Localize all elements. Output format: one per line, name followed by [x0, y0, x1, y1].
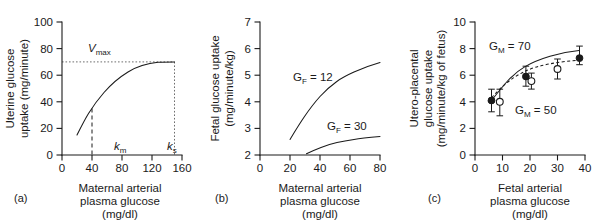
- y-ticks-c: [470, 22, 476, 155]
- y-ticks-b: [255, 22, 261, 155]
- y-tick-label-a-2: 40: [40, 96, 53, 108]
- x-tick-label-a-2: 80: [116, 162, 129, 174]
- svg-text:plasma glucose: plasma glucose: [80, 195, 160, 207]
- svg-text:(mg/dl): (mg/dl): [302, 208, 338, 220]
- y-tick-label-b-3: 5: [245, 69, 251, 81]
- figure-container: 0 20 40 60 80 100 0 40 80 120 160 Vmax k…: [0, 0, 607, 222]
- series-label-gf-30: GF = 30: [327, 120, 367, 135]
- x-tick-label-c-2: 20: [524, 162, 537, 174]
- x-tick-label-c-0: 0: [472, 162, 478, 174]
- y-tick-label-a-4: 80: [40, 43, 53, 55]
- x-tick-label-c-4: 40: [579, 162, 592, 174]
- x-ticks-b: [260, 155, 380, 161]
- y-tick-label-c-4: 8: [460, 43, 466, 55]
- panel-a-plot: 0 20 40 60 80 100 0 40 80 120 160 Vmax k…: [0, 0, 205, 222]
- panel-c: 0 2 4 6 8 10 0 10 20 30 40 GM = 70 GM = …: [398, 0, 607, 222]
- km-annotation: km: [114, 140, 127, 155]
- panel-letter-c: (c): [428, 192, 441, 204]
- x-tick-label-b-3: 60: [344, 162, 357, 174]
- x-axis-title-b: Maternal arterial plasma glucose (mg/dl): [278, 182, 361, 220]
- x-axis-title-a: Maternal arterial plasma glucose (mg/dl): [78, 182, 161, 220]
- series-label-gf-12: GF = 12: [293, 71, 333, 86]
- svg-text:Utero-placental: Utero-placental: [408, 50, 420, 128]
- x-tick-label-a-3: 120: [142, 162, 161, 174]
- trend-line-gm-50: [488, 60, 583, 102]
- y-tick-label-c-1: 2: [460, 122, 466, 134]
- panel-b: 2 3 4 5 6 7 0 20 40 60 80 GF = 12 GF = 3…: [203, 0, 403, 222]
- y-tick-label-b-4: 6: [245, 43, 251, 55]
- svg-text:glucose uptake: glucose uptake: [422, 50, 434, 127]
- x-tick-label-c-3: 30: [551, 162, 564, 174]
- x-tick-label-a-4: 160: [172, 162, 191, 174]
- svg-text:(mg/dl): (mg/dl): [102, 208, 138, 220]
- svg-text:Maternal arterial: Maternal arterial: [78, 182, 161, 194]
- svg-text:(mg/minute/kg of fetus): (mg/minute/kg of fetus): [435, 30, 447, 148]
- svg-text:uptake (mg/minute): uptake (mg/minute): [18, 39, 30, 138]
- y-axis-title-c: Utero-placental glucose uptake (mg/minut…: [408, 30, 447, 148]
- y-tick-label-b-5: 7: [245, 16, 251, 28]
- svg-text:(mg/minute/kg): (mg/minute/kg): [223, 50, 235, 127]
- x-tick-label-b-0: 0: [257, 162, 263, 174]
- panel-letter-a: (a): [14, 192, 27, 204]
- x-ticks-a: [62, 155, 182, 161]
- y-tick-label-b-0: 2: [245, 149, 251, 161]
- svg-text:Maternal arterial: Maternal arterial: [278, 182, 361, 194]
- x-tick-label-b-2: 40: [314, 162, 327, 174]
- y-tick-label-c-2: 4: [460, 96, 467, 108]
- x-tick-label-b-1: 20: [284, 162, 297, 174]
- x-tick-label-a-0: 0: [59, 162, 65, 174]
- y-tick-label-c-0: 0: [460, 149, 466, 161]
- svg-text:(mg/dl): (mg/dl): [512, 208, 548, 220]
- y-tick-label-a-3: 60: [40, 69, 53, 81]
- ks-annotation: ks: [167, 140, 177, 155]
- panel-b-plot: 2 3 4 5 6 7 0 20 40 60 80 GF = 12 GF = 3…: [203, 0, 403, 222]
- trend-line-gm-70: [492, 51, 580, 101]
- x-axis-title-c: Fetal arterial plasma glucose (mg/dl): [490, 182, 570, 220]
- y-axis-title-b: Fetal glucose uptake (mg/minute/kg): [209, 35, 235, 141]
- x-ticks-c: [475, 155, 585, 161]
- x-tick-label-b-4: 80: [374, 162, 387, 174]
- vmax-annotation: Vmax: [88, 42, 111, 57]
- y-tick-label-a-5: 100: [34, 16, 53, 28]
- svg-text:Fetal arterial: Fetal arterial: [498, 182, 562, 194]
- series-label-gm-50: GM = 50: [515, 104, 557, 119]
- panel-letter-b: (b): [215, 192, 228, 204]
- series-label-gm-70: GM = 70: [489, 40, 531, 55]
- svg-text:plasma glucose: plasma glucose: [490, 195, 570, 207]
- data-points-gm-50: [496, 66, 561, 106]
- panel-a: 0 20 40 60 80 100 0 40 80 120 160 Vmax k…: [0, 0, 205, 222]
- y-tick-label-b-2: 4: [245, 96, 252, 108]
- y-tick-label-c-5: 10: [453, 16, 466, 28]
- svg-text:Uterine glucose: Uterine glucose: [4, 49, 16, 129]
- panel-c-plot: 0 2 4 6 8 10 0 10 20 30 40 GM = 70 GM = …: [398, 0, 607, 222]
- y-ticks-a: [57, 22, 63, 155]
- svg-text:Fetal glucose uptake: Fetal glucose uptake: [209, 35, 221, 141]
- y-tick-label-a-0: 0: [47, 149, 53, 161]
- curve-gf-30: [307, 137, 381, 154]
- y-tick-label-a-1: 20: [40, 122, 53, 134]
- x-tick-label-c-1: 10: [496, 162, 509, 174]
- data-points-gm-70: [488, 55, 583, 104]
- y-tick-label-b-1: 3: [245, 122, 251, 134]
- y-axis-title-a: Uterine glucose uptake (mg/minute): [4, 39, 30, 138]
- x-tick-label-a-1: 40: [86, 162, 99, 174]
- y-tick-label-c-3: 6: [460, 69, 466, 81]
- svg-text:plasma glucose: plasma glucose: [280, 195, 360, 207]
